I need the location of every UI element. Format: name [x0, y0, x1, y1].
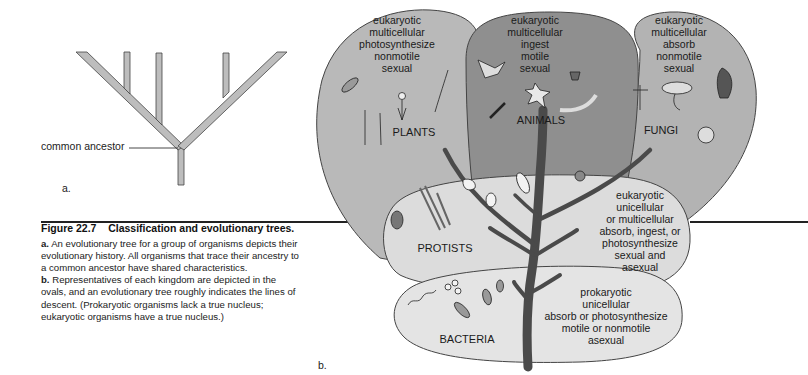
animals-trait-5: sexual: [520, 62, 550, 74]
fungi-trait-5: sexual: [664, 62, 694, 74]
protists-trait-3: or multicellular: [606, 213, 674, 225]
plants-trait-5: sexual: [382, 62, 412, 74]
animals-label: ANIMALS: [517, 114, 565, 126]
bacteria-label: BACTERIA: [439, 333, 495, 345]
sea-anemone-icon: [570, 72, 580, 80]
euglena-icon: [486, 193, 496, 207]
protists-trait-6: sexual and: [615, 249, 666, 261]
coccus-icon: [452, 280, 458, 286]
protists-trait-1: eukaryotic: [616, 189, 664, 201]
protists-trait-4: absorb, ingest, or: [599, 225, 681, 237]
animals-trait-4: motile: [521, 50, 549, 62]
protists-trait-7: asexual: [622, 261, 658, 273]
plants-trait-2: multicellular: [369, 26, 425, 38]
yeast-cluster-icon: [698, 127, 714, 143]
mushroom-cap-icon: [662, 82, 692, 94]
fungi-trait-1: eukaryotic: [655, 14, 703, 26]
bacteria-trait-3: absorb or photosynthesize: [544, 310, 667, 322]
protists-trait-2: unicellular: [616, 201, 664, 213]
coccus-icon: [455, 288, 461, 294]
bacteria-trait-5: asexual: [588, 334, 624, 346]
animals-trait-2: multicellular: [507, 26, 563, 38]
bacteria-trait-2: unicellular: [582, 298, 630, 310]
plants-trait-1: eukaryotic: [373, 14, 421, 26]
plants-trait-4: nonmotile: [374, 50, 420, 62]
animals-trait-3: ingest: [521, 38, 549, 50]
coccus-icon: [445, 284, 451, 290]
fungi-trait-3: absorb: [663, 38, 695, 50]
protists-label: PROTISTS: [417, 242, 472, 254]
plants-trait-3: photosynthesize: [359, 38, 435, 50]
tulip-flower-icon: [399, 93, 406, 100]
animals-trait-1: eukaryotic: [511, 14, 559, 26]
fungi-trait-4: nonmotile: [656, 50, 702, 62]
fungi-trait-2: multicellular: [651, 26, 707, 38]
bacteria-trait-4: motile or nonmotile: [562, 322, 651, 334]
bacteria-trait-1: prokaryotic: [580, 286, 631, 298]
plants-label: PLANTS: [393, 126, 436, 138]
five-kingdoms-diagram: eukaryotic multicellular photosynthesize…: [0, 0, 808, 375]
bacillus-icon: [497, 280, 504, 292]
slime-mold-icon: [575, 171, 585, 181]
diatom-icon: [391, 211, 403, 229]
protists-trait-5: photosynthesize: [602, 237, 678, 249]
fungi-label: FUNGI: [644, 124, 678, 136]
